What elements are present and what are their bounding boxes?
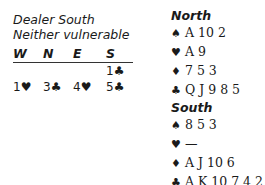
bid: 4♥	[73, 80, 91, 94]
heart-icon: ♥	[171, 136, 185, 154]
hearts-holding: ♥A 9	[171, 43, 240, 62]
auction-row: 1♣	[13, 64, 138, 79]
col-west: W	[13, 46, 27, 61]
club-icon: ♣	[171, 82, 185, 100]
bid: 1♥	[13, 80, 31, 94]
club-icon: ♣	[171, 174, 185, 185]
hand-title: North	[171, 8, 240, 24]
col-north: N	[43, 46, 53, 61]
bid: 5♣	[106, 80, 124, 94]
vulnerability-label: Neither vulnerable	[13, 27, 129, 42]
diamond-icon: ♦	[171, 63, 185, 81]
auction-header: W N E S	[13, 46, 133, 63]
diamonds-holding: ♦7 5 3	[171, 62, 240, 81]
heart-icon: ♥	[171, 44, 185, 62]
bid: 3♣	[43, 80, 61, 94]
col-south: S	[106, 46, 115, 61]
diamond-icon: ♦	[171, 155, 185, 173]
north-hand: North ♠A 10 2 ♥A 9 ♦7 5 3 ♣Q J 9 8 5	[171, 8, 240, 100]
hearts-holding: ♥—	[171, 135, 263, 154]
diamonds-holding: ♦A J 10 6	[171, 154, 263, 173]
spades-holding: ♠8 5 3	[171, 116, 263, 135]
hand-title: South	[171, 100, 263, 116]
auction-row: 1♥ 3♣ 4♥ 5♣	[13, 80, 138, 95]
deal-info: Dealer South Neither vulnerable	[13, 12, 129, 42]
clubs-holding: ♣A K 10 7 4 2	[171, 173, 263, 185]
bid: 1♣	[106, 64, 124, 78]
spade-icon: ♠	[171, 25, 185, 43]
dealer-label: Dealer South	[13, 12, 129, 27]
clubs-holding: ♣Q J 9 8 5	[171, 81, 240, 100]
spade-icon: ♠	[171, 117, 185, 135]
col-east: E	[73, 46, 82, 61]
south-hand: South ♠8 5 3 ♥— ♦A J 10 6 ♣A K 10 7 4 2	[171, 100, 263, 185]
spades-holding: ♠A 10 2	[171, 24, 240, 43]
